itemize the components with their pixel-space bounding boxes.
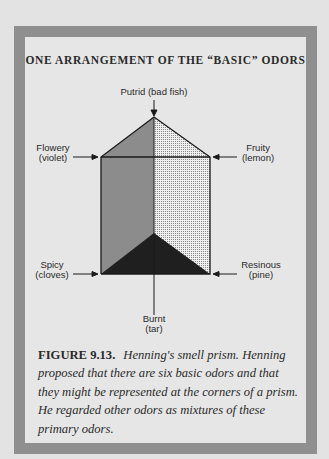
figure-panel: ONE ARRANGEMENT OF THE “BASIC” ODORS: [25, 37, 306, 443]
label-resinous: Resinous (pine): [236, 260, 286, 279]
label-putrid: Putrid (bad fish): [114, 87, 194, 97]
label-spicy: Spicy (cloves): [31, 260, 73, 279]
arrow-putrid-icon: [151, 100, 157, 116]
arrow-spicy-icon: [73, 272, 98, 277]
arrow-fruity-icon: [213, 155, 237, 160]
arrow-flowery-icon: [73, 155, 98, 160]
arrow-resinous-icon: [213, 272, 237, 277]
label-fruity: Fruity (lemon): [236, 143, 280, 162]
label-putrid-text: Putrid (bad fish): [120, 86, 187, 97]
label-flowery-line2: (violet): [33, 153, 73, 163]
label-burnt: Burnt (tar): [134, 314, 174, 333]
label-fruity-line2: (lemon): [236, 153, 280, 163]
label-spicy-line2: (cloves): [31, 270, 73, 280]
figure-caption: FIGURE 9.13.Henning's smell prism. Henni…: [38, 346, 300, 438]
label-burnt-line2: (tar): [134, 324, 174, 334]
label-flowery: Flowery (violet): [33, 143, 73, 162]
figure-number: FIGURE 9.13.: [38, 348, 115, 362]
label-resinous-line2: (pine): [236, 270, 286, 280]
figure-frame: ONE ARRANGEMENT OF THE “BASIC” ODORS: [14, 26, 317, 454]
